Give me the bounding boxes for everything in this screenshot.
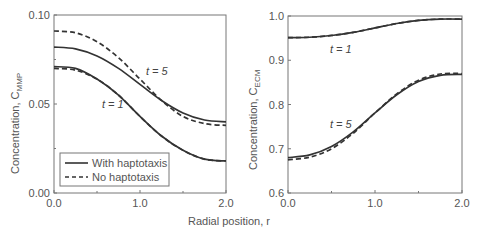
- legend-no-haptotaxis: No haptotaxis: [92, 171, 160, 183]
- legend-with-haptotaxis: With haptotaxis: [92, 157, 168, 169]
- right-ylabel-main: Concentration, C: [247, 87, 259, 170]
- x-tick-label: 2.0: [218, 197, 233, 209]
- x-tick-label: 1.0: [132, 197, 147, 209]
- curve-with-haptotaxis-t-1: [54, 67, 226, 161]
- right-plot-frame: [288, 16, 462, 193]
- y-tick-label: 0.00: [29, 187, 50, 199]
- right-ylabel-sub: ECM: [253, 69, 262, 87]
- curve-with-haptotaxis-t-5: [54, 47, 226, 122]
- right-annotation-t5: t = 5: [330, 118, 353, 130]
- y-tick-label: 0.9: [269, 54, 284, 66]
- y-tick-label: 0.6: [269, 187, 284, 199]
- curve-with-haptotaxis-t-5: [288, 74, 462, 157]
- y-tick-label: 0.7: [269, 143, 284, 155]
- x-axis-label: Radial position, r: [188, 215, 270, 227]
- legend: With haptotaxis No haptotaxis: [60, 153, 169, 186]
- curve-no-haptotaxis-t-1: [54, 68, 226, 161]
- y-tick-label: 1.0: [269, 10, 284, 22]
- left-ylabel-main: Concentration, C: [9, 91, 21, 174]
- left-annotation-t5: t = 5: [146, 65, 169, 77]
- curve-no-haptotaxis-t-5: [54, 31, 226, 125]
- right-y-axis-label: Concentration, CECM: [247, 69, 262, 170]
- y-tick-label: 0.8: [269, 99, 284, 111]
- left-panel: 0.01.02.00.000.050.10 t = 5 t = 1 With h…: [9, 9, 234, 209]
- right-panel: 0.01.02.00.60.70.80.91.0 t = 1 t = 5 Con…: [247, 10, 470, 209]
- right-annotation-t1: t = 1: [330, 43, 352, 55]
- left-y-axis-label: Concentration, CMMP: [9, 73, 24, 174]
- curve-with-haptotaxis-t-1: [288, 19, 462, 38]
- x-tick-label: 1.0: [367, 197, 382, 209]
- figure: 0.01.02.00.000.050.10 t = 5 t = 1 With h…: [0, 0, 478, 234]
- left-annotation-t1: t = 1: [102, 98, 124, 110]
- left-ylabel-sub: MMP: [15, 73, 24, 92]
- y-tick-label: 0.05: [29, 98, 50, 110]
- y-tick-label: 0.10: [29, 9, 50, 21]
- x-tick-label: 2.0: [454, 197, 469, 209]
- curve-no-haptotaxis-t-5: [288, 73, 462, 159]
